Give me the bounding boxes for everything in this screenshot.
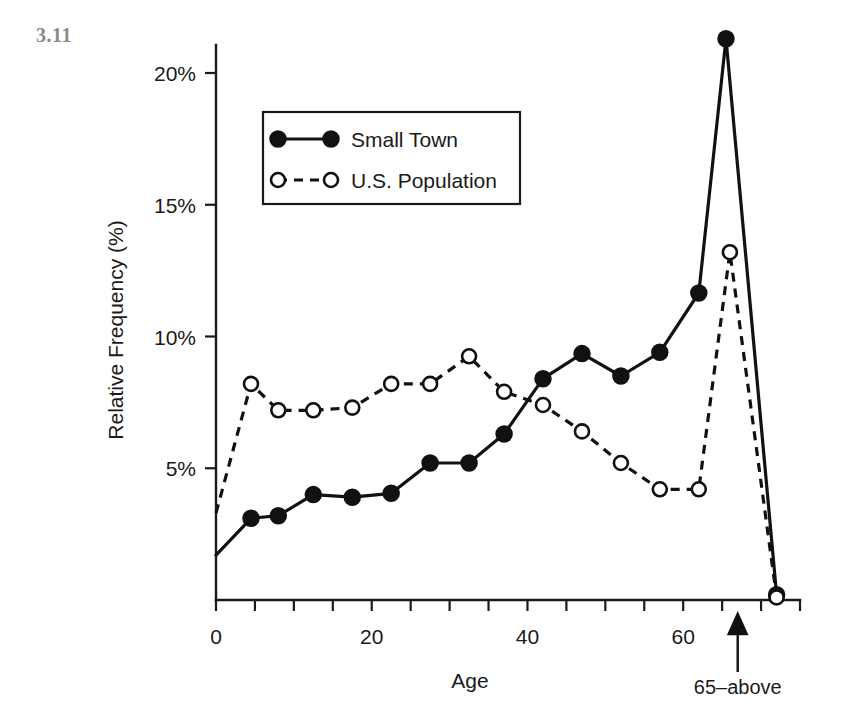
legend-marker-filled-left	[270, 131, 286, 147]
data-point-open	[723, 245, 737, 259]
data-point-open	[306, 403, 320, 417]
legend-label-small-town: Small Town	[351, 128, 458, 151]
x-tick-label: 60	[672, 625, 695, 648]
data-point-filled	[613, 368, 629, 384]
data-point-filled	[461, 455, 477, 471]
data-point-filled	[270, 508, 286, 524]
data-point-filled	[422, 455, 438, 471]
data-point-open	[653, 482, 667, 496]
y-axis-title: Relative Frequency (%)	[104, 220, 127, 439]
data-point-filled	[718, 31, 734, 47]
data-point-open	[462, 349, 476, 363]
data-point-filled	[574, 346, 590, 362]
x-tick-label: 40	[516, 625, 539, 648]
data-point-open	[271, 403, 285, 417]
data-point-open	[345, 401, 359, 415]
data-point-filled	[496, 426, 512, 442]
y-tick-label: 20%	[154, 62, 196, 85]
data-point-open	[384, 377, 398, 391]
annotation-arrow-head	[729, 614, 747, 634]
x-tick-label: 0	[210, 625, 222, 648]
y-tick-label: 15%	[154, 194, 196, 217]
data-point-open	[423, 377, 437, 391]
data-point-open	[536, 398, 550, 412]
data-point-filled	[305, 487, 321, 503]
figure-container: 3.11 5%10%15%20% 0204060 Age Relative Fr…	[0, 0, 852, 712]
x-tick-label: 20	[360, 625, 383, 648]
chart-canvas: 5%10%15%20% 0204060 Age Relative Frequen…	[0, 0, 852, 712]
data-point-open	[497, 385, 511, 399]
y-tick-label: 10%	[154, 326, 196, 349]
data-point-filled	[691, 285, 707, 301]
legend-marker-open-right	[324, 173, 338, 187]
x-axis-title: Age	[451, 669, 488, 692]
legend-marker-open-left	[271, 173, 285, 187]
y-tick-label: 5%	[166, 457, 196, 480]
data-point-filled	[383, 485, 399, 501]
x-axis-ticks: 0204060	[210, 600, 800, 648]
annotation-label-65-above: 65–above	[694, 676, 782, 698]
annotation-layer: 65–above	[694, 614, 782, 698]
legend-label-us-population: U.S. Population	[351, 169, 497, 192]
data-point-filled	[652, 344, 668, 360]
data-point-open	[244, 377, 258, 391]
data-point-open	[575, 424, 589, 438]
data-point-open	[692, 482, 706, 496]
legend-marker-filled-right	[323, 131, 339, 147]
data-point-open	[770, 590, 784, 604]
y-axis-ticks: 5%10%15%20%	[154, 62, 216, 480]
data-point-filled	[535, 371, 551, 387]
data-point-filled	[344, 489, 360, 505]
chart-legend[interactable]: Small Town U.S. Population	[263, 112, 520, 204]
data-point-filled	[243, 510, 259, 526]
data-point-open	[614, 456, 628, 470]
